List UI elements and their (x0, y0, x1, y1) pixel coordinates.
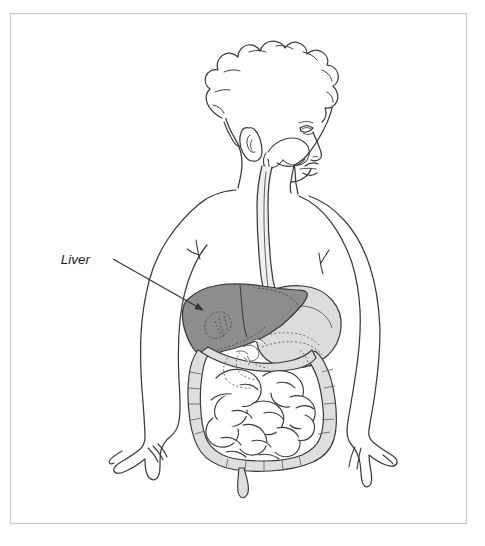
liver-label: Liver (61, 252, 91, 267)
illustration-figure: Liver (0, 0, 485, 546)
anatomy-diagram: Liver (0, 0, 485, 546)
